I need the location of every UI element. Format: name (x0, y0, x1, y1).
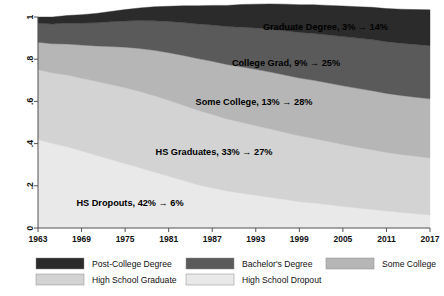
y-tick-label: .2 (25, 182, 35, 189)
annotation-college-grad: College Grad, 9% → 25% (232, 58, 340, 68)
legend-item-bachelor-s-degree-label: Bachelor's Degree (242, 259, 313, 269)
annotation-hs-graduates: HS Graduates, 33% → 27% (156, 147, 273, 157)
x-tick-label: 1981 (159, 234, 178, 244)
annotation-grad-degree: Graduate Degree, 3% → 14% (263, 22, 388, 32)
chart-container: 1963196919751981198719931999200520112017… (0, 0, 444, 296)
x-tick-label: 1969 (72, 234, 91, 244)
legend-item-high-school-dropout-label: High School Dropout (242, 275, 322, 285)
legend-item-high-school-graduate-label: High School Graduate (92, 275, 177, 285)
legend-item-some-college-label: Some College (382, 259, 436, 269)
legend-item-bachelor-s-degree-swatch (186, 258, 234, 269)
x-tick-label: 1999 (290, 234, 309, 244)
legend-item-some-college-swatch (326, 258, 374, 269)
legend-item-high-school-dropout-swatch (186, 274, 234, 285)
x-tick-label: 2017 (421, 234, 440, 244)
education-attainment-stacked-area-chart: 1963196919751981198719931999200520112017… (0, 0, 444, 296)
legend-item-high-school-graduate-swatch (36, 274, 84, 285)
y-tick-label: 1 (25, 14, 35, 19)
legend-item-post-college-degree-swatch (36, 258, 84, 269)
y-axis-ticks: 0.2.4.6.81 (25, 14, 38, 230)
y-tick-label: 0 (25, 225, 35, 230)
y-tick-label: .4 (25, 140, 35, 147)
x-tick-label: 2005 (333, 234, 352, 244)
legend-item-post-college-degree-label: Post-College Degree (92, 259, 172, 269)
stacked-areas-group (38, 4, 430, 228)
x-tick-label: 1987 (203, 234, 222, 244)
x-tick-label: 1993 (246, 234, 265, 244)
y-tick-label: .8 (25, 55, 35, 62)
annotation-hs-dropouts: HS Dropouts, 42% → 6% (76, 198, 183, 208)
x-axis-ticks: 1963196919751981198719931999200520112017 (29, 228, 440, 244)
x-tick-label: 1963 (29, 234, 48, 244)
chart-legend: Post-College DegreeBachelor's DegreeSome… (36, 258, 436, 285)
x-tick-label: 1975 (116, 234, 135, 244)
annotation-some-college: Some College, 13% → 28% (196, 97, 313, 107)
y-tick-label: .6 (25, 98, 35, 105)
x-tick-label: 2011 (377, 234, 396, 244)
